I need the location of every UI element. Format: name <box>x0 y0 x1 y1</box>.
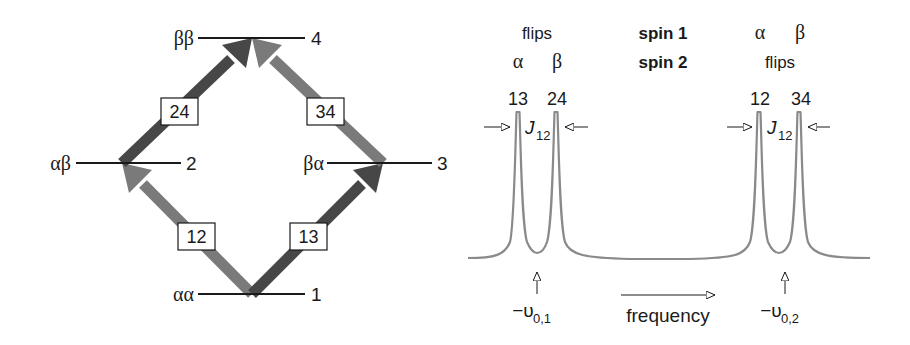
shift-subscript: 0,2 <box>781 311 799 326</box>
level-number-label: 1 <box>311 284 322 305</box>
spectrum-panel: flips α β spin 1 spin 2 α β flips 13 24 … <box>468 21 870 326</box>
level-state-label: αβ <box>50 152 71 175</box>
left-beta-label: β <box>552 50 562 73</box>
shift-marker-2: −υ 0,2 <box>760 272 799 326</box>
peak-label-34: 34 <box>791 89 811 109</box>
shift-label: −υ <box>512 300 534 321</box>
level-number-label: 3 <box>437 153 448 174</box>
figure-canvas: ββ 4 αβ 2 βα 3 αα 1 24 34 12 13 flips α … <box>0 0 910 345</box>
level-state-label: βα <box>303 152 324 175</box>
peak-label-12: 12 <box>750 89 770 109</box>
legend-spin1-label: spin 1 <box>638 24 687 43</box>
level-state-label: αα <box>173 283 194 305</box>
left-flips-label: flips <box>522 24 552 43</box>
transition-label-box-12: 12 <box>178 223 215 250</box>
frequency-axis: frequency <box>621 295 715 326</box>
svg-text:34: 34 <box>315 102 335 122</box>
peak-label-13: 13 <box>508 89 528 109</box>
right-beta-label: β <box>795 21 805 44</box>
transition-label-box-13: 13 <box>290 223 327 250</box>
legend-spin2-label: spin 2 <box>638 53 687 72</box>
coupling-subscript: 12 <box>536 128 550 143</box>
energy-level-diagram: ββ 4 αβ 2 βα 3 αα 1 24 34 12 13 <box>50 27 447 305</box>
level-state-label: ββ <box>174 27 194 50</box>
svg-text:24: 24 <box>169 102 189 122</box>
transition-label-box-24: 24 <box>161 98 198 125</box>
shift-subscript: 0,1 <box>533 311 551 326</box>
shift-marker-1: −υ 0,1 <box>512 272 551 326</box>
left-alpha-label: α <box>513 50 524 72</box>
level-number-label: 2 <box>186 153 197 174</box>
right-alpha-label: α <box>755 21 766 43</box>
svg-text:12: 12 <box>186 227 206 247</box>
right-coupling-indicator: J 12 <box>727 117 830 143</box>
svg-text:13: 13 <box>298 227 318 247</box>
right-flips-label: flips <box>765 53 795 72</box>
shift-label: −υ <box>760 300 782 321</box>
frequency-axis-label: frequency <box>626 305 710 326</box>
left-coupling-indicator: J 12 <box>484 117 588 143</box>
coupling-label: J <box>766 117 777 138</box>
coupling-label: J <box>524 117 535 138</box>
coupling-subscript: 12 <box>778 128 792 143</box>
transition-label-box-34: 34 <box>307 98 344 125</box>
peak-label-24: 24 <box>547 89 567 109</box>
level-number-label: 4 <box>311 28 322 49</box>
figure: ββ 4 αβ 2 βα 3 αα 1 24 34 12 13 flips α … <box>0 0 910 345</box>
